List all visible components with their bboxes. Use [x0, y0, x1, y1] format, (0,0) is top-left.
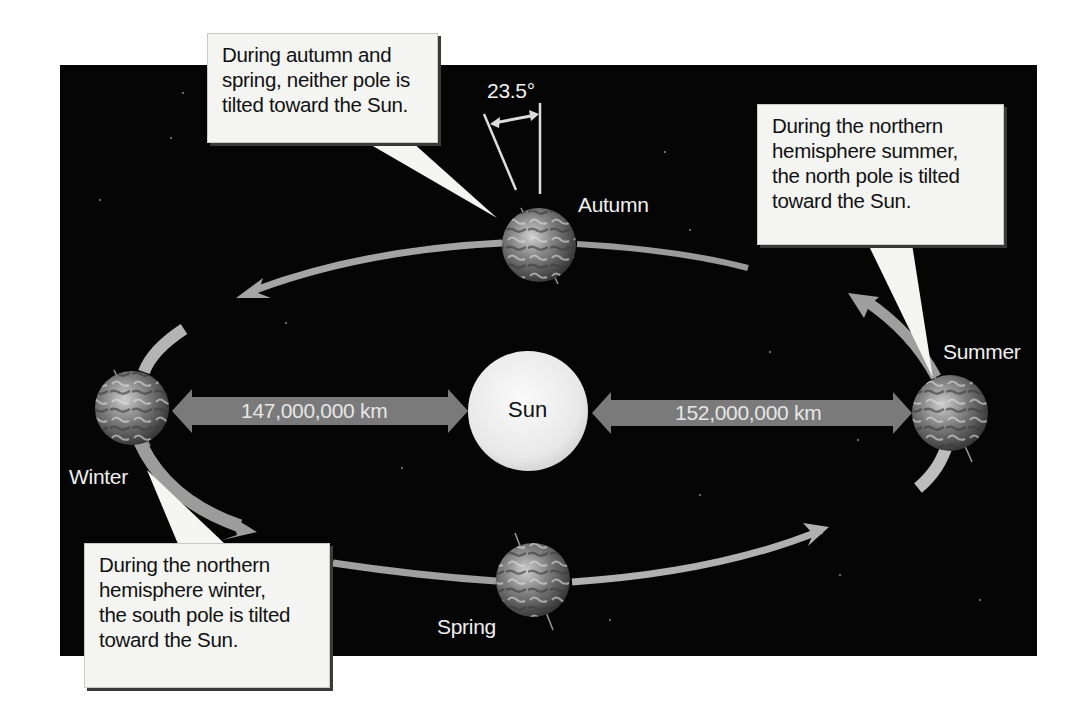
callout-line: toward the Sun.	[772, 188, 993, 213]
callout-line: the south pole is tilted	[99, 602, 319, 627]
season-label-summer: Summer	[943, 340, 1021, 364]
callout-summer: During the northern hemisphere summer, t…	[757, 104, 1004, 245]
sun-label: Sun	[508, 397, 547, 423]
callout-line: hemisphere summer,	[772, 138, 993, 163]
callout-line: spring, neither pole is	[222, 67, 427, 92]
callout-line: During the northern	[99, 552, 319, 577]
season-label-spring: Spring	[437, 615, 496, 639]
callout-line: toward the Sun.	[99, 627, 319, 652]
callout-line: hemisphere winter,	[99, 577, 319, 602]
callout-line: During the northern	[772, 113, 993, 138]
season-label-autumn: Autumn	[578, 193, 649, 217]
perihelion-distance-label: 147,000,000 km	[241, 399, 387, 423]
tilt-angle-label: 23.5°	[487, 79, 535, 103]
earth-summer	[912, 366, 988, 462]
tilt-angle-indicator	[484, 103, 540, 194]
aphelion-distance-label: 152,000,000 km	[675, 401, 821, 425]
earth-autumn	[502, 208, 576, 284]
callout-line: tilted toward the Sun.	[222, 92, 427, 117]
callout-equinox: During autumn and spring, neither pole i…	[207, 33, 438, 143]
callout-line: the north pole is tilted	[772, 163, 993, 188]
orbit-arrow-spring-to-summer	[572, 530, 822, 582]
orbit-arrow-autumn-to-winter	[250, 243, 502, 292]
earth-spring	[496, 533, 570, 630]
season-label-winter: Winter	[69, 465, 128, 489]
callout-line: During autumn and	[222, 42, 427, 67]
callout-winter: During the northern hemisphere winter, t…	[84, 543, 330, 688]
earth-winter	[95, 370, 169, 446]
callout-tail-equinox	[366, 142, 497, 218]
callout-tail-winter	[147, 470, 225, 544]
